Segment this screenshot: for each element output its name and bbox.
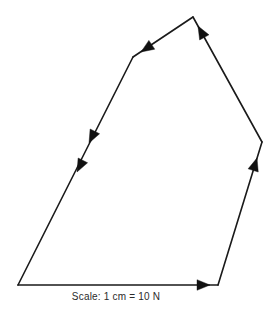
scale-caption: Scale: 1 cm = 10 N [0,290,232,303]
bottom-edge-arrow-icon [197,280,210,291]
lower-right-edge-arrow-icon [248,156,262,172]
left-edge-line [18,57,133,285]
left-edge-arrow-upper-icon [84,129,99,145]
upper-right-edge-arrow-icon [193,23,209,40]
arrow-heads-group [72,23,262,290]
vector-polygon-figure: Scale: 1 cm = 10 N [0,0,276,317]
vector-polygon-diagram [0,0,276,317]
vector-edges-group [18,17,262,285]
top-edge-arrow-icon [138,40,155,56]
